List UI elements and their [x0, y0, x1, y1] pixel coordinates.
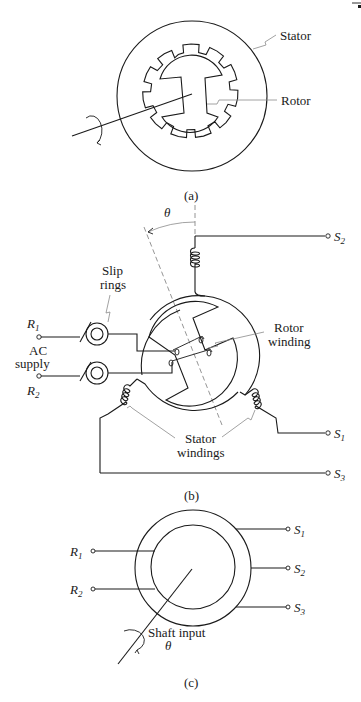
synchro-diagram: Stator Rotor (a) θ S2 Rotor windin: [0, 0, 361, 702]
rotor-inner-circle-c: [151, 525, 235, 609]
rotor-winding-label-line2: winding: [268, 334, 311, 349]
figure-a-caption: (a): [184, 188, 198, 203]
terminal-r2-label: R2: [26, 383, 40, 400]
stator-outer-circle: [117, 21, 267, 171]
stator-windings-label-line1: Stator: [185, 431, 217, 446]
stator-coil-top: [191, 248, 200, 292]
terminal-s3-label: S3: [334, 466, 346, 483]
terminal-r1-label-c: R1: [69, 544, 82, 561]
figure-c-caption: (c): [184, 675, 198, 690]
stator-coil-right: [245, 389, 325, 433]
terminal-r2-label-c: R2: [69, 582, 83, 599]
shaft-c: [118, 569, 192, 664]
rotor-shape-b: [149, 301, 237, 406]
rotor-label: Rotor: [281, 93, 311, 108]
terminal-r1-label: R1: [26, 316, 39, 333]
rotor-winding-label-line1: Rotor: [274, 320, 304, 335]
theta-label: θ: [164, 205, 171, 220]
rotation-arrow-icon: [86, 116, 102, 143]
corner-mark: [352, 3, 361, 8]
figure-c: R1 R2 S1 S2 S3 Shaft input θ (c): [69, 510, 306, 690]
stator-windings-label-line2: windings: [177, 445, 225, 460]
terminal-s1-label-c: S1: [294, 522, 305, 539]
shaft-input-label: Shaft input: [148, 625, 206, 640]
rotation-arrow-icon-c: [124, 630, 144, 650]
figure-b: θ S2 Rotor winding Slip rings: [15, 205, 346, 503]
figure-b-caption: (b): [184, 488, 199, 503]
slip-ring-1: [80, 322, 108, 345]
stator-coil-left: [100, 379, 137, 473]
terminal-s2-label: S2: [334, 229, 346, 246]
slip-rings-label-line1: Slip: [102, 263, 123, 278]
slip-ring-2: [80, 362, 108, 384]
ac-supply-label-line2: supply: [15, 356, 50, 371]
shaft-theta-label: θ: [165, 638, 172, 653]
stator-label: Stator: [280, 28, 312, 43]
terminal-s3-label-c: S3: [294, 600, 306, 617]
terminal-s1-label: S1: [334, 426, 345, 443]
terminal-s2-label-c: S2: [294, 561, 306, 578]
stator-teeth: [143, 44, 238, 138]
slip-rings-label-line2: rings: [100, 277, 126, 292]
figure-a: Stator Rotor (a): [72, 21, 312, 203]
